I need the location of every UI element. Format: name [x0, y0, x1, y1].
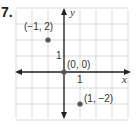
coordinate-plane: y x 1 1 (−1, 2)(0, 0)(1, −2)	[0, 0, 139, 126]
data-points: (−1, 2)(0, 0)(1, −2)	[24, 21, 113, 107]
y-axis-arrow-down-icon	[61, 112, 67, 119]
point-label: (1, −2)	[84, 93, 113, 104]
point-label: (−1, 2)	[24, 21, 53, 32]
data-point	[45, 37, 50, 42]
data-point	[61, 69, 66, 74]
y-axis-label: y	[69, 6, 75, 18]
data-point	[77, 101, 82, 106]
x-tick-label: 1	[77, 74, 83, 85]
point-label: (0, 0)	[67, 59, 90, 70]
y-tick-label: 1	[56, 50, 62, 61]
x-axis-label: x	[121, 73, 127, 85]
y-axis-arrow-up-icon	[61, 8, 67, 15]
